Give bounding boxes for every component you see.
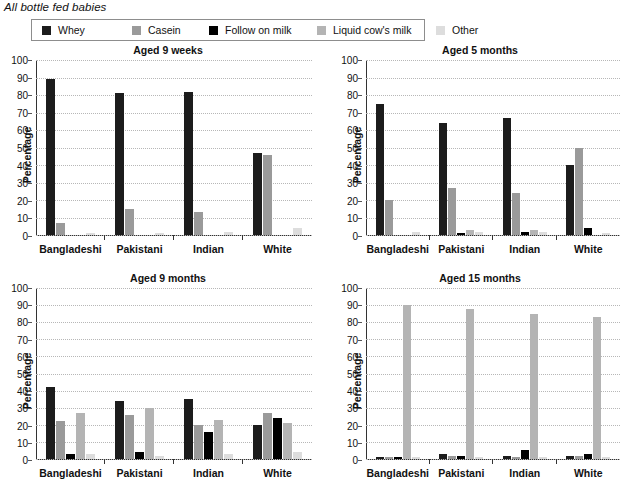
bar xyxy=(283,423,292,459)
bar xyxy=(575,148,583,236)
bar xyxy=(539,232,547,236)
plot-area: 1009080706050403020100 xyxy=(366,288,620,460)
y-tick-label: 60 xyxy=(347,125,358,136)
plot-area: 1009080706050403020100 xyxy=(36,60,312,236)
bar xyxy=(184,399,193,459)
y-tick-label: 100 xyxy=(11,283,28,294)
x-axis-label: Indian xyxy=(493,243,557,255)
chart-aged-5-months: Aged 5 monthsPercentage10090807060504030… xyxy=(330,44,620,266)
chart-aged-15-months: Aged 15 monthsPercentage1009080706050403… xyxy=(330,272,620,489)
y-tick-label: 10 xyxy=(17,213,28,224)
y-tick-label: 20 xyxy=(347,420,358,431)
chart-legend: WheyCaseinFollow on milkLiquid cow's mil… xyxy=(31,19,425,41)
y-tick-label: 50 xyxy=(17,369,28,380)
x-axis-label: Indian xyxy=(493,467,557,479)
y-tick-label: 50 xyxy=(347,143,358,154)
bar xyxy=(503,456,511,459)
y-tick-label: 30 xyxy=(347,178,358,189)
bar xyxy=(86,454,95,459)
legend-item-whey[interactable]: Whey xyxy=(42,24,85,36)
bar xyxy=(125,209,134,235)
x-axis-label: Pakistani xyxy=(105,243,174,255)
bar xyxy=(66,454,75,459)
y-tick-mark xyxy=(28,236,32,237)
bar xyxy=(466,309,474,459)
bar xyxy=(475,457,483,459)
bar xyxy=(439,454,447,459)
gridline xyxy=(36,459,312,460)
y-tick-mark xyxy=(358,460,362,461)
bar xyxy=(521,232,529,236)
y-tick-label: 40 xyxy=(17,386,28,397)
y-tick-label: 100 xyxy=(341,283,358,294)
bar xyxy=(224,454,233,459)
bar xyxy=(530,314,538,459)
y-tick-mark xyxy=(358,183,362,184)
x-axis-label: Pakistani xyxy=(430,243,494,255)
y-axis-ticks: 1009080706050403020100 xyxy=(2,60,32,236)
bar xyxy=(457,233,465,235)
y-tick-mark xyxy=(358,113,362,114)
y-tick-label: 50 xyxy=(347,369,358,380)
bar xyxy=(512,457,520,459)
bar xyxy=(76,413,85,459)
y-tick-label: 20 xyxy=(17,195,28,206)
x-axis-label: Bangladeshi xyxy=(366,243,430,255)
x-axis-label: Indian xyxy=(174,243,243,255)
x-axis-label: Pakistani xyxy=(105,467,174,479)
legend-swatch-icon xyxy=(132,26,141,35)
y-tick-label: 70 xyxy=(347,334,358,345)
y-tick-mark xyxy=(358,166,362,167)
y-tick-mark xyxy=(358,426,362,427)
bar xyxy=(155,456,164,459)
legend-item-other[interactable]: Other xyxy=(436,24,478,36)
y-tick-label: 80 xyxy=(17,90,28,101)
bar xyxy=(135,452,144,459)
bar-group xyxy=(174,288,243,459)
bar-group xyxy=(430,60,494,235)
legend-item-label: Follow on milk xyxy=(225,24,292,36)
bar xyxy=(253,425,262,459)
y-tick-mark xyxy=(28,60,32,61)
y-tick-label: 100 xyxy=(11,55,28,66)
bar xyxy=(155,233,164,235)
legend-item-label: Casein xyxy=(148,24,181,36)
y-tick-label: 30 xyxy=(17,178,28,189)
bar xyxy=(385,457,393,459)
bar xyxy=(403,305,411,459)
legend-swatch-icon xyxy=(436,26,445,35)
y-axis-ticks: 1009080706050403020100 xyxy=(332,288,362,460)
x-axis-label: White xyxy=(243,243,312,255)
y-tick-mark xyxy=(358,340,362,341)
y-tick-label: 40 xyxy=(17,160,28,171)
legend-item-liquid-cow-s-milk[interactable]: Liquid cow's milk xyxy=(317,24,411,36)
y-tick-label: 90 xyxy=(347,72,358,83)
y-tick-mark xyxy=(28,288,32,289)
bar xyxy=(530,230,538,235)
bar-group xyxy=(174,60,243,235)
legend-swatch-icon xyxy=(209,26,218,35)
bar-group xyxy=(105,60,174,235)
legend-item-casein[interactable]: Casein xyxy=(132,24,181,36)
bar xyxy=(194,425,203,459)
bar xyxy=(125,415,134,459)
y-tick-mark xyxy=(28,305,32,306)
x-axis-separator xyxy=(492,459,493,464)
bar xyxy=(293,228,302,235)
bar xyxy=(412,232,420,236)
y-tick-mark xyxy=(358,374,362,375)
y-tick-label: 10 xyxy=(17,437,28,448)
legend-item-follow-on-milk[interactable]: Follow on milk xyxy=(209,24,292,36)
y-tick-mark xyxy=(358,201,362,202)
bar xyxy=(385,200,393,235)
bar xyxy=(224,232,233,236)
x-axis-labels: BangladeshiPakistaniIndianWhite xyxy=(36,243,312,255)
y-tick-mark xyxy=(358,305,362,306)
gridline xyxy=(366,459,620,460)
chart-aged-9-months: Aged 9 monthsPercentage10090807060504030… xyxy=(0,272,318,489)
plot-area: 1009080706050403020100 xyxy=(36,288,312,460)
bar xyxy=(521,450,529,459)
y-tick-mark xyxy=(28,340,32,341)
bar xyxy=(376,457,384,459)
y-tick-mark xyxy=(358,78,362,79)
